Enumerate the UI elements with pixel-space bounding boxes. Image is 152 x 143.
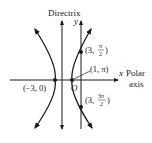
point-label-3-3pi-over-2: (3, 3π 2 )	[85, 93, 110, 107]
label-suffix: )	[105, 45, 108, 55]
polar-axis-label-line1: Polar	[126, 68, 145, 78]
point-label-neg3-0: (−3, 0)	[23, 83, 46, 93]
label-numerator: π	[99, 43, 102, 49]
point-3-pi-over-2	[79, 50, 83, 54]
label-prefix: (3,	[85, 95, 94, 105]
polar-axis-label-line2: axis	[129, 79, 144, 89]
label-suffix: )	[107, 95, 110, 105]
label-numerator: 3π	[98, 93, 104, 99]
point-label-3-pi-over-2: (3, π 2 )	[85, 43, 108, 57]
label-denominator: 2	[99, 51, 102, 57]
point-label-1-pi: (1, π)	[90, 64, 109, 74]
y-axis-label: y	[73, 16, 78, 26]
label-denominator: 2	[100, 101, 103, 107]
leader-line-1-pi	[74, 71, 90, 79]
polar-hyperbola-diagram: Directrix y x Polar axis O (−3, 0) (1, π…	[0, 0, 152, 143]
point-vertex-left	[53, 78, 57, 82]
x-axis-label: x	[118, 68, 123, 78]
label-prefix: (3,	[85, 45, 94, 55]
hyperbola-left-branch	[35, 29, 55, 128]
point-origin-vertex	[70, 78, 74, 82]
origin-label: O	[71, 83, 78, 93]
point-3-3pi-over-2	[79, 105, 83, 109]
